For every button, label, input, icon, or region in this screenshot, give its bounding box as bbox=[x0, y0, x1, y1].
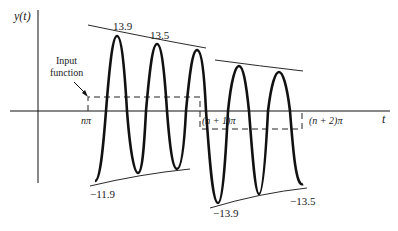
trough-label-minus-13-5: −13.5 bbox=[290, 195, 316, 207]
trough-label-minus-13-9: −13.9 bbox=[213, 207, 239, 219]
tick-n-pi: nπ bbox=[81, 115, 92, 126]
input-annotation-line1: Input bbox=[56, 55, 77, 66]
peak-label-13-9: 13.9 bbox=[113, 20, 133, 32]
response-diagram: y(t) t nπ (n + 1)π (n + 2)π Input functi… bbox=[0, 0, 398, 231]
trough-label-minus-11-9: −11.9 bbox=[90, 188, 116, 200]
input-annotation-line2: function bbox=[50, 67, 83, 78]
y-axis-label: y(t) bbox=[13, 9, 31, 23]
x-axis-label: t bbox=[382, 112, 386, 126]
envelopes bbox=[88, 25, 307, 208]
peak-label-13-5: 13.5 bbox=[150, 29, 170, 41]
tick-n-plus-2-pi: (n + 2)π bbox=[309, 115, 343, 127]
